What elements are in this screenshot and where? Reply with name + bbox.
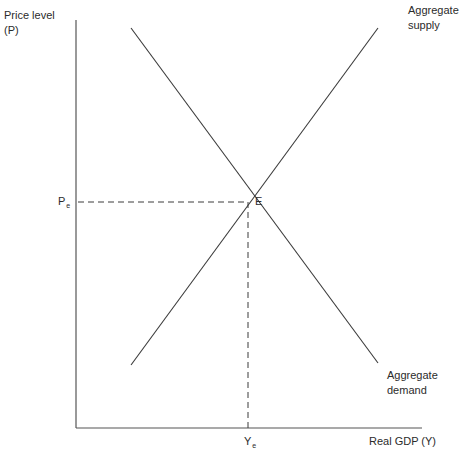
ad-as-diagram <box>0 0 469 472</box>
equilibrium-point-text: E <box>255 195 262 207</box>
price-subscript: e <box>66 202 70 209</box>
y-axis-label: Price level (P) <box>4 8 55 38</box>
aggregate-supply-label-line1: Aggregate <box>408 3 459 18</box>
aggregate-demand-label: Aggregate demand <box>387 368 438 398</box>
y-axis-label-line2: (P) <box>4 23 55 38</box>
x-axis-label: Real GDP (Y) <box>369 434 436 449</box>
equilibrium-point-label: E <box>255 194 262 209</box>
price-symbol: P <box>58 195 65 207</box>
x-axis-label-text: Real GDP (Y) <box>369 435 436 447</box>
aggregate-demand-label-line1: Aggregate <box>387 368 438 383</box>
aggregate-supply-label-line2: supply <box>408 18 459 33</box>
aggregate-supply-label: Aggregate supply <box>408 3 459 33</box>
output-subscript: e <box>252 442 256 449</box>
aggregate-demand-label-line2: demand <box>387 383 438 398</box>
equilibrium-output-label: Ye <box>244 434 255 450</box>
equilibrium-price-label: Pe <box>58 194 69 210</box>
y-axis-label-line1: Price level <box>4 8 55 23</box>
output-symbol: Y <box>244 435 251 447</box>
